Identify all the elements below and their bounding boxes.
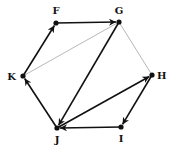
node-label-h: H <box>157 70 166 81</box>
node-k <box>20 73 25 78</box>
edges <box>23 22 152 128</box>
node-label-f: F <box>52 5 59 16</box>
directed-graph: FGHIJK <box>0 0 175 154</box>
edge-g-h <box>119 22 152 75</box>
node-label-g: G <box>115 5 124 16</box>
node-label-i: I <box>119 133 124 144</box>
edge-k-f <box>23 26 54 76</box>
edge-i-j <box>60 127 121 128</box>
node-h <box>149 72 154 77</box>
node-label-k: K <box>7 71 16 82</box>
node-g <box>116 19 121 24</box>
edge-j-k <box>25 79 57 128</box>
node-f <box>53 20 58 25</box>
node-i <box>118 124 123 129</box>
edge-k-g <box>23 22 119 76</box>
node-label-j: J <box>54 134 60 145</box>
node-j <box>54 125 59 130</box>
node-labels: FGHIJK <box>7 5 166 145</box>
edge-f-g <box>56 22 116 23</box>
